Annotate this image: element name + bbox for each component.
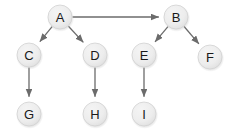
- node-label: I: [142, 107, 146, 122]
- node-label: D: [90, 48, 99, 63]
- edge-a-to-d: [68, 26, 83, 42]
- node-label: E: [140, 48, 149, 63]
- node-h[interactable]: H: [82, 102, 109, 129]
- diagram-canvas: ABCDEFGHI: [0, 0, 232, 136]
- edge-b-to-f: [184, 27, 199, 44]
- node-e[interactable]: E: [131, 43, 158, 70]
- node-d[interactable]: D: [82, 43, 109, 70]
- directed-graph: ABCDEFGHI: [0, 0, 232, 136]
- node-layer: ABCDEFGHI: [16, 5, 224, 129]
- edge-a-to-c: [40, 27, 52, 42]
- node-label: H: [90, 107, 99, 122]
- node-c[interactable]: C: [16, 43, 43, 70]
- node-f[interactable]: F: [197, 45, 224, 72]
- node-i[interactable]: I: [131, 102, 158, 129]
- node-b[interactable]: B: [163, 5, 190, 32]
- node-label: G: [24, 107, 34, 122]
- node-label: A: [56, 10, 65, 25]
- node-label: B: [172, 10, 181, 25]
- node-label: F: [206, 50, 214, 65]
- node-a[interactable]: A: [47, 5, 74, 32]
- edge-b-to-e: [155, 27, 168, 42]
- node-label: C: [24, 48, 33, 63]
- node-g[interactable]: G: [16, 102, 43, 129]
